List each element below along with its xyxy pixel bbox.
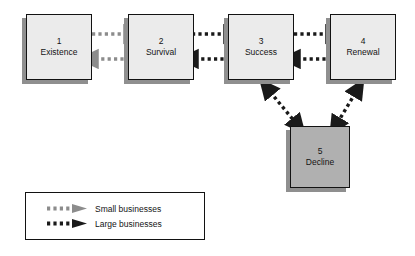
large-business-arrow-icon — [46, 219, 88, 228]
edge-renewal-decline — [338, 82, 362, 122]
node-survival-number: 2 — [159, 36, 164, 47]
node-decline-label: Decline — [306, 157, 334, 168]
node-existence-label: Existence — [41, 47, 78, 58]
diagram-canvas: 1 Existence 2 Survival 3 Success 4 Renew… — [0, 0, 415, 256]
node-decline-number: 5 — [318, 146, 323, 157]
node-survival[interactable]: 2 Survival — [128, 14, 194, 80]
node-renewal-number: 4 — [361, 36, 366, 47]
legend-item-large: Large businesses — [46, 219, 204, 229]
small-business-arrow-icon — [46, 204, 88, 213]
node-success-number: 3 — [259, 36, 264, 47]
node-success[interactable]: 3 Success — [228, 14, 294, 80]
node-renewal-label: Renewal — [346, 47, 379, 58]
legend-label-small: Small businesses — [95, 204, 161, 214]
node-survival-label: Survival — [146, 47, 176, 58]
legend: Small businesses Large businesses — [25, 192, 205, 240]
node-success-label: Success — [245, 47, 277, 58]
edge-success-decline — [262, 82, 295, 122]
legend-item-small: Small businesses — [46, 204, 204, 214]
node-existence[interactable]: 1 Existence — [26, 14, 92, 80]
node-renewal[interactable]: 4 Renewal — [330, 14, 396, 80]
node-decline[interactable]: 5 Decline — [290, 126, 350, 188]
node-existence-number: 1 — [57, 36, 62, 47]
legend-label-large: Large businesses — [95, 219, 162, 229]
